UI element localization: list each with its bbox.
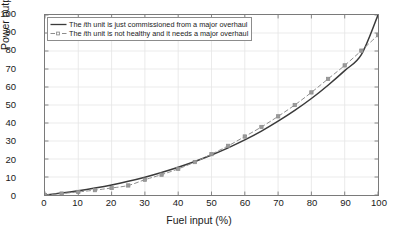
series-marker-1 (360, 49, 363, 52)
x-tick-label: 50 (197, 198, 227, 208)
legend-dashed-line-sample (50, 29, 67, 38)
legend-label-unhealthy: The ith unit is not healthy and it needs… (69, 29, 248, 38)
series-marker-1 (160, 173, 163, 176)
legend-item-unhealthy: The ith unit is not healthy and it needs… (50, 29, 248, 38)
series-line-0 (45, 15, 378, 195)
y-axis-title: Power output (%) (0, 0, 11, 50)
series-marker-1 (243, 135, 246, 138)
x-axis-title: Fuel input (%) (0, 214, 398, 226)
legend-item-commissioned: The ith unit is just commissioned from a… (50, 20, 248, 29)
curve-layer (45, 15, 378, 195)
legend-label-commissioned: The ith unit is just commissioned from a… (69, 20, 247, 29)
series-marker-1 (60, 192, 63, 195)
y-tick-label: 60 (0, 82, 16, 92)
series-marker-1 (376, 33, 378, 36)
y-tick-label: 30 (0, 136, 16, 146)
series-line-1 (45, 35, 378, 195)
y-tick-label: 70 (0, 64, 16, 74)
y-tick-label: 50 (0, 100, 16, 110)
x-tick-label: 40 (163, 198, 193, 208)
series-marker-1 (276, 115, 279, 118)
series-marker-1 (93, 188, 96, 191)
y-tick-label: 20 (0, 155, 16, 165)
y-tick-label: 0 (0, 191, 16, 201)
x-tick-label: 100 (364, 198, 394, 208)
x-tick-label: 90 (331, 198, 361, 208)
x-tick-label: 20 (96, 198, 126, 208)
legend-solid-line-sample (50, 20, 67, 29)
series-marker-1 (210, 152, 213, 155)
x-tick-label: 80 (297, 198, 327, 208)
series-marker-1 (326, 77, 329, 80)
x-tick-label: 30 (130, 198, 160, 208)
series-marker-1 (260, 125, 263, 128)
series-marker-1 (310, 91, 313, 94)
series-marker-1 (193, 160, 196, 163)
x-tick-label: 0 (29, 198, 59, 208)
plot-area (44, 14, 379, 196)
series-marker-1 (226, 144, 229, 147)
y-tick-label: 40 (0, 118, 16, 128)
series-marker-1 (45, 193, 47, 195)
series-marker-1 (110, 186, 113, 189)
series-marker-1 (343, 64, 346, 67)
series-marker-1 (127, 184, 130, 187)
y-tick-label: 10 (0, 173, 16, 183)
x-tick-label: 60 (230, 198, 260, 208)
x-tick-label: 70 (264, 198, 294, 208)
series-marker-1 (143, 178, 146, 181)
chart-figure: 0102030405060708090100 01020304050607080… (0, 0, 398, 234)
series-marker-1 (77, 190, 80, 193)
chart-legend: The ith unit is just commissioned from a… (47, 17, 252, 41)
x-tick-label: 10 (63, 198, 93, 208)
series-marker-1 (177, 167, 180, 170)
series-marker-1 (293, 103, 296, 106)
